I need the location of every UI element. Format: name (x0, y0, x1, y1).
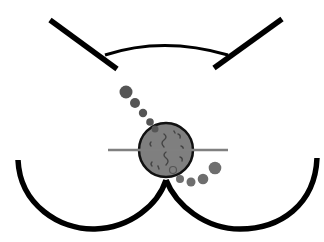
left-arm (50, 20, 117, 69)
dot (176, 175, 184, 183)
dot (146, 118, 154, 126)
upper-structure (50, 19, 282, 69)
dot (198, 174, 209, 185)
left-lobe (18, 160, 166, 229)
diagram-svg (0, 0, 324, 242)
dot (139, 109, 147, 117)
upper-arc (105, 46, 228, 56)
dot (209, 162, 222, 175)
right-arm (214, 19, 282, 68)
right-lobe (166, 158, 317, 229)
upper-dot-chain (120, 86, 154, 126)
diagram-canvas (0, 0, 324, 242)
dot (130, 98, 140, 108)
dot (187, 178, 196, 187)
inner-dot (152, 126, 159, 133)
dot (120, 86, 133, 99)
